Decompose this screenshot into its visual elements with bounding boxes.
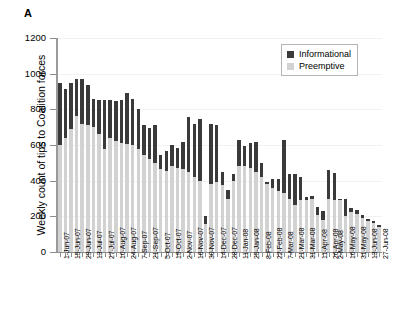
bar-segment-informational [355,210,358,214]
y-tick-mark [50,181,56,182]
bar-segment-informational [86,85,89,125]
bar-group[interactable] [97,100,100,252]
bar-segment-informational [226,190,229,198]
x-tick-mark [105,253,106,257]
x-tick-label: 15-Jun-07 [74,228,82,259]
x-tick-mark [205,253,206,257]
x-tick-label: 27-Jun-08 [382,228,390,259]
x-tick-label: 8-Feb-08 [265,231,273,259]
y-tick-mark [50,38,56,39]
bar-group[interactable] [64,89,67,252]
x-tick-mark [217,253,218,257]
bar-group[interactable] [58,83,61,252]
x-tick-mark [60,253,61,257]
bar-segment-informational [187,117,190,171]
bar-group[interactable] [103,100,106,252]
bar-segment-informational [204,216,207,224]
bar-segment-informational [321,211,324,220]
x-tick-label: 2-May-08 [337,230,345,259]
y-tick-label: 400 [0,176,46,186]
y-tick-label: 0 [0,247,46,257]
bar-segment-informational [254,142,257,171]
bar-segment-informational [198,119,201,181]
gridline [57,38,382,39]
bar-segment-informational [265,182,268,185]
bar-segment-informational [114,101,117,141]
bar-segment-informational [338,199,341,201]
bar-segment-informational [159,155,162,169]
x-tick-label: 2-Nov-07 [186,231,194,259]
bar-segment-informational [142,125,145,155]
x-tick-label: 21-Mar-08 [298,228,306,259]
x-tick-label: 22-Feb-08 [276,228,284,259]
x-tick-label: 29-Jun-07 [85,228,93,259]
x-tick-mark [93,253,94,257]
y-tick-mark [50,216,56,217]
x-tick-label: 13-Jul-07 [96,231,104,259]
bar-segment-informational [293,174,296,205]
bar-segment-informational [209,124,212,185]
x-tick-label: 13-Jun-08 [371,228,379,259]
bar-group[interactable] [80,79,83,252]
legend-swatch [287,51,294,58]
bar-segment-informational [349,208,352,212]
x-tick-mark [138,253,139,257]
x-tick-label: 14-Dec-07 [220,227,228,259]
bar-segment-informational [92,99,95,128]
y-tick-mark [50,109,56,110]
bar-segment-informational [299,177,302,200]
x-tick-mark [262,253,263,257]
bar-segment-informational [316,207,319,214]
legend-swatch [287,63,294,70]
bar-group[interactable] [86,85,89,252]
x-tick-mark [284,253,285,257]
x-tick-label: 31-Mar-08 [309,228,317,259]
x-tick-label: 11-Apr-08 [321,229,329,259]
x-tick-label: 19-Oct-07 [175,229,183,259]
bar-segment-informational [103,100,106,149]
chart-legend: InformationalPreemptive [281,44,358,76]
bar-segment-informational [282,140,285,194]
bar-segment-informational [193,124,196,178]
bar-group[interactable] [75,79,78,252]
legend-label: Informational [299,49,351,59]
legend-item[interactable]: Preemptive [287,60,351,72]
bar-segment-informational [69,83,72,129]
x-tick-label: 7-Sep-07 [141,231,149,259]
x-tick-label: 25-Jan-08 [253,228,261,259]
x-tick-label: 31-May-08 [360,226,368,259]
y-tick-label: 1200 [0,33,46,43]
y-tick-label: 600 [0,140,46,150]
x-tick-mark [127,253,128,257]
legend-label: Preemptive [299,61,345,71]
x-tick-label: 27-Jul-07 [108,231,116,259]
legend-item[interactable]: Informational [287,48,351,60]
x-tick-label: 10-Aug-07 [119,227,127,259]
bar-segment-informational [165,151,168,171]
bar-group[interactable] [108,100,111,252]
bar-group[interactable] [69,83,72,252]
x-tick-mark [82,253,83,257]
y-tick-mark [50,74,56,75]
panel-label: A [24,7,32,19]
y-tick-label: 800 [0,104,46,114]
bar-segment-informational [237,140,240,167]
x-tick-mark [172,253,173,257]
bar-segment-informational [58,83,61,145]
bar-segment-informational [243,146,246,167]
x-tick-mark [239,253,240,257]
y-axis-spine [56,38,58,253]
bar-segment-informational [120,100,123,144]
bar-segment-informational [271,179,274,188]
bar-segment-informational [80,79,83,124]
bar-segment-informational [170,145,173,166]
bar-segment-informational [108,100,111,137]
bar-segment-informational [181,142,184,169]
bar-segment-informational [131,99,134,145]
y-tick-label: 1000 [0,69,46,79]
bar-segment-informational [333,173,336,201]
bar-group[interactable] [114,101,117,252]
bar-segment-informational [148,128,151,159]
x-tick-mark [194,253,195,257]
bar-segment-informational [277,179,280,191]
